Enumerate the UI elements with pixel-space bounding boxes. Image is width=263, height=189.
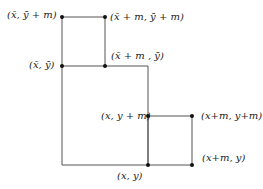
point-xbarm-ybarm xyxy=(103,15,107,19)
diagram-lines xyxy=(62,17,192,165)
small-square xyxy=(148,116,192,165)
label-x-y-plus-m: (x, y + m) xyxy=(101,110,151,122)
point-xbar-ybar xyxy=(60,64,64,68)
label-xbar-plus-m-ybar-plus-m: (x̄ + m, ȳ + m) xyxy=(110,11,184,23)
outer-outline xyxy=(62,17,148,165)
point-xm-y xyxy=(190,163,194,167)
label-x-y: (x, y) xyxy=(117,170,142,182)
label-x-plus-m-y-plus-m: (x+m, y+m) xyxy=(201,110,262,122)
label-x-plus-m-y: (x+m, y) xyxy=(202,152,245,164)
point-x-y xyxy=(146,163,150,167)
point-xbarm-ybar xyxy=(103,64,107,68)
label-xbar-ybar: (x̄, ȳ) xyxy=(29,59,54,71)
diagram-points xyxy=(60,15,194,167)
label-xbar-ybar-plus-m: (x̄, ȳ + m) xyxy=(7,9,57,21)
label-xbar-plus-m-ybar: (x̄ + m , ȳ) xyxy=(111,50,164,62)
point-xm-ym xyxy=(190,114,194,118)
point-xbar-ybarm xyxy=(60,15,64,19)
